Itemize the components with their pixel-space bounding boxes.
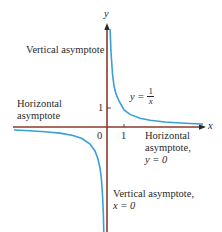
function-label: y = 1 x (130, 87, 154, 106)
curve-positive-branch (110, 29, 203, 124)
function-denominator: x (149, 97, 153, 106)
horizontal-asymptote-right-line2: asymptote, (145, 142, 191, 154)
x-axis-arrow-icon (199, 124, 206, 129)
y-axis-arrow-icon (104, 23, 109, 30)
y-axis-label: y (104, 8, 109, 20)
x-axis-label: x (208, 120, 213, 132)
vertical-asymptote-top-label: Vertical asymptote (26, 44, 104, 56)
horizontal-asymptote-left-line2: asymptote (17, 110, 60, 122)
origin-label: 0 (97, 130, 102, 142)
curve-negative-branch (14, 130, 104, 232)
x-tick-label: 1 (121, 130, 126, 142)
horizontal-asymptote-right-line3: y = 0 (145, 154, 167, 166)
function-lhs: y = (130, 91, 144, 102)
vertical-asymptote-bottom-line2: x = 0 (113, 200, 135, 212)
vertical-asymptote-bottom-line1: Vertical asymptote, (113, 188, 194, 200)
horizontal-asymptote-right-line1: Horizontal (145, 130, 190, 142)
y-tick-label: 1 (98, 102, 103, 114)
horizontal-asymptote-left-line1: Horizontal (17, 98, 62, 110)
